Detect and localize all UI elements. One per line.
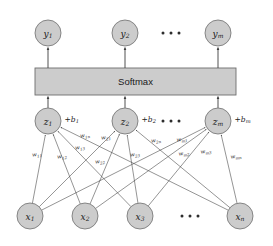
ellipsis-dot — [162, 120, 165, 123]
weight-edge — [58, 131, 131, 206]
weight-edge — [127, 135, 138, 203]
weight-label-w13: w13 — [75, 144, 86, 153]
logit-node-z1: z1 — [35, 108, 61, 134]
input-layer: x1x2x3xn — [17, 203, 253, 229]
diagram-canvas: Softmax y1y2ym z1z2zm x1x2x3xn w11w12w13… — [0, 0, 273, 246]
ellipsis-input — [181, 215, 200, 218]
weight-edge — [61, 127, 229, 210]
input-node-x2: x2 — [72, 203, 98, 229]
ellipsis-dot — [189, 215, 192, 218]
input-node-x3: x3 — [127, 203, 153, 229]
ellipsis-output — [162, 32, 181, 35]
weight-label-w23: w23 — [130, 151, 141, 160]
weight-label-wm3: wm3 — [200, 148, 212, 157]
ellipsis-logit — [162, 120, 181, 123]
weight-label-wmn: wmn — [230, 153, 242, 162]
input-to-logit-edges — [32, 127, 237, 210]
weight-label-w11: w11 — [32, 151, 43, 160]
ellipsis-dot — [170, 120, 173, 123]
bias-label-b2: +b2 — [142, 115, 157, 124]
weight-edge — [32, 135, 45, 203]
network-diagram: Softmax y1y2ym z1z2zm x1x2x3xn w11w12w13… — [0, 0, 273, 246]
softmax-to-output-edges — [48, 48, 218, 69]
weight-label-w22: w22 — [95, 158, 106, 167]
ellipsis-dot — [162, 32, 165, 35]
bias-label-b1: +b1 — [65, 115, 80, 124]
ellipsis-dot — [178, 32, 181, 35]
ellipsis-dot — [197, 215, 200, 218]
ellipsis-dot — [181, 215, 184, 218]
input-node-x1: x1 — [17, 203, 43, 229]
ellipsis-dot — [178, 120, 181, 123]
output-node-y1: y1 — [35, 20, 61, 46]
output-node-ym: ym — [205, 20, 231, 46]
logit-node-zm: zm — [205, 108, 231, 134]
logit-to-softmax-edges — [48, 97, 218, 109]
weight-label-w1n: w1n — [80, 132, 91, 141]
weight-edge — [221, 135, 237, 204]
input-node-xn: xn — [227, 203, 253, 229]
ellipsis-markers — [162, 32, 200, 218]
softmax-label: Softmax — [118, 76, 153, 87]
ellipsis-dot — [170, 32, 173, 35]
logit-node-z2: z2 — [112, 108, 138, 134]
weight-label-w2n: w2n — [151, 137, 162, 146]
weight-label-w12: w12 — [57, 153, 68, 162]
bias-label-bm: +bm — [235, 115, 251, 124]
output-node-y2: y2 — [112, 20, 138, 46]
output-layer: y1y2ym — [35, 20, 231, 46]
weight-label-w21: w21 — [101, 134, 112, 143]
